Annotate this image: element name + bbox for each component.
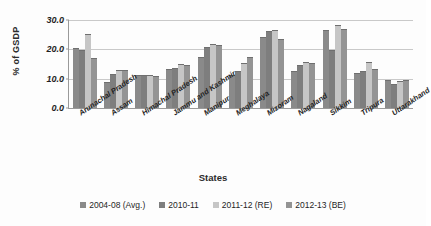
x-axis-tick-labels: Arunachal PradeshAssamHimachal PradeshJa… [68, 110, 412, 168]
legend-label: 2011-12 (RE) [222, 200, 272, 210]
x-axis-title: States [0, 172, 426, 183]
bar-group [288, 20, 319, 108]
legend-swatch-icon [286, 202, 292, 208]
y-axis-title: % of GSDP [11, 11, 21, 91]
legend-item[interactable]: 2010-11 [159, 200, 199, 210]
legend-swatch-icon [213, 202, 219, 208]
bar-group [69, 20, 100, 108]
y-axis-tick-label: 10.0 [46, 74, 64, 84]
y-axis-tick-label: 0.0 [51, 103, 64, 113]
y-axis-tick-label: 30.0 [46, 15, 64, 25]
legend-item[interactable]: 2011-12 (RE) [213, 200, 272, 210]
bar-group [225, 20, 256, 108]
y-axis-tick-label: 20.0 [46, 44, 64, 54]
legend-label: 2012-13 (BE) [295, 200, 346, 210]
bar-group [350, 20, 381, 108]
legend-item[interactable]: 2012-13 (BE) [286, 200, 346, 210]
legend-swatch-icon [80, 202, 86, 208]
chart-legend: 2004-08 (Avg.)2010-112011-12 (RE)2012-13… [0, 200, 426, 210]
bar-groups [69, 20, 413, 108]
legend-item[interactable]: 2004-08 (Avg.) [80, 200, 145, 210]
legend-swatch-icon [159, 202, 165, 208]
bar [341, 29, 347, 108]
bar-group [382, 20, 413, 108]
legend-label: 2010-11 [168, 200, 199, 210]
plot-area: 0.010.020.030.0 [68, 20, 413, 109]
legend-label: 2004-08 (Avg.) [89, 200, 145, 210]
bar-group [132, 20, 163, 108]
